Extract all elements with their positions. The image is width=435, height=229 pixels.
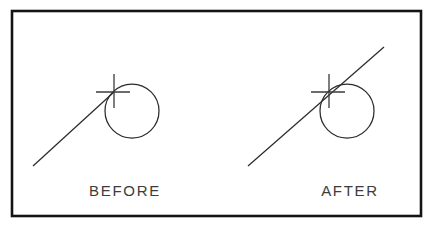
caption-before: BEFORE xyxy=(89,182,161,199)
cad-illustration-svg: BEFORE AFTER xyxy=(0,0,435,229)
figure-root: BEFORE AFTER xyxy=(0,0,435,229)
caption-after: AFTER xyxy=(321,182,379,199)
